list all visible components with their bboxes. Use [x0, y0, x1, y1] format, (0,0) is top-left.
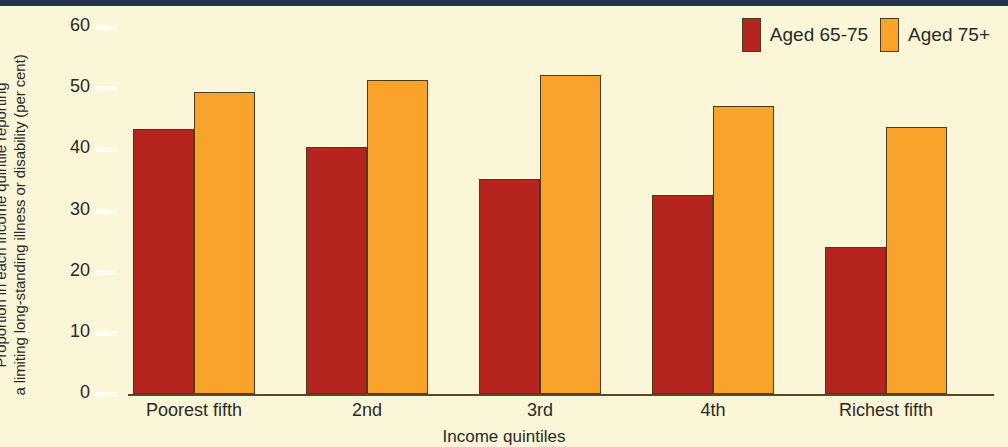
- legend-swatch-icon-series-1: [742, 18, 761, 52]
- bar-series-1: [652, 195, 713, 394]
- chart-legend: Aged 65-75 Aged 75+: [742, 18, 990, 52]
- x-axis-category-label: 4th: [612, 400, 814, 421]
- y-axis-tick-label: 0: [48, 382, 90, 403]
- y-axis-tick: [95, 25, 117, 30]
- y-axis-tick: [95, 209, 117, 214]
- x-axis-category-label: Poorest fifth: [93, 400, 295, 421]
- bar-series-2: [540, 75, 601, 394]
- y-axis-tick: [95, 392, 117, 397]
- bar-series-2: [713, 106, 774, 394]
- legend-item-aged-65-75: Aged 65-75: [742, 18, 868, 52]
- bar-series-1: [133, 129, 194, 394]
- y-axis-tick-label: 10: [48, 321, 90, 342]
- y-axis-tick-label: 30: [48, 199, 90, 220]
- y-axis-tick-label: 40: [48, 137, 90, 158]
- bar-series-2: [194, 92, 255, 394]
- legend-label-series-2: Aged 75+: [908, 24, 990, 46]
- y-axis-title-line-2: a limiting long-standing illness or disa…: [10, 35, 29, 415]
- y-axis-tick-label: 20: [48, 260, 90, 281]
- y-axis-tick: [95, 147, 117, 152]
- y-axis-tick: [95, 86, 117, 91]
- bar-series-2: [886, 127, 947, 394]
- y-axis-title: Proportion in each income quintile repor…: [0, 35, 29, 415]
- y-axis-tick: [95, 331, 117, 336]
- y-axis-tick-label: 50: [48, 76, 90, 97]
- y-axis-title-line-1: Proportion in each income quintile repor…: [0, 35, 10, 415]
- x-axis-category-label: 2nd: [266, 400, 468, 421]
- y-axis-tick: [95, 270, 117, 275]
- x-axis-category-label: Richest fifth: [785, 400, 987, 421]
- bar-series-1: [479, 179, 540, 394]
- x-axis-line: [128, 394, 994, 396]
- bar-series-2: [367, 80, 428, 394]
- legend-swatch-icon-series-2: [880, 18, 899, 52]
- legend-item-aged-75-plus: Aged 75+: [880, 18, 990, 52]
- x-axis-category-label: 3rd: [439, 400, 641, 421]
- bar-chart-figure: Proportion in each income quintile repor…: [0, 6, 1008, 447]
- y-axis-tick-label: 60: [48, 15, 90, 36]
- legend-label-series-1: Aged 65-75: [770, 24, 868, 46]
- x-axis-title: Income quintiles: [0, 427, 1008, 447]
- bar-series-1: [306, 147, 367, 394]
- bar-series-1: [825, 247, 886, 394]
